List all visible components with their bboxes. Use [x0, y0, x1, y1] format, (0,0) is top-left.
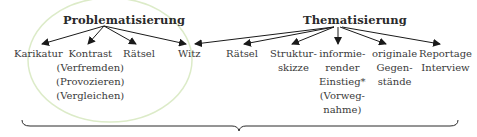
- item-raetsel-left: Rätsel: [123, 47, 155, 61]
- item-raetsel-right: Rätsel: [226, 47, 258, 61]
- item-kontrast: Kontrast (Verfremden) (Provozieren) (Ver…: [56, 47, 125, 103]
- item-strukturskizze: Struktur- skizze: [270, 47, 317, 75]
- problematisierung-arrows: [42, 26, 186, 44]
- item-witz: Witz: [178, 47, 201, 61]
- thematisierung-title: Thematisierung: [303, 13, 407, 27]
- item-originale-gegenstaende: originale Gegen- stände: [372, 47, 417, 89]
- thematisierung-arrows: [195, 27, 440, 44]
- problematisierung-title: Problematisierung: [63, 13, 185, 27]
- item-informierender-einstieg: informie- render Einstieg* (Vorweg- nahm…: [319, 47, 366, 117]
- underbrace: [22, 120, 458, 131]
- item-reportage-interview: Reportage Interview: [419, 47, 472, 75]
